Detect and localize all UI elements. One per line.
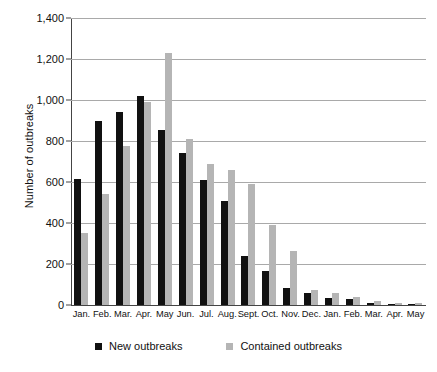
x-tick-label: Mar. xyxy=(363,309,384,319)
gray-square-icon xyxy=(226,343,233,350)
bar-contained-outbreaks xyxy=(81,233,88,305)
legend-label: Contained outbreaks xyxy=(240,340,342,352)
bar-contained-outbreaks xyxy=(311,290,318,305)
bar-group xyxy=(238,18,259,305)
chart-legend: New outbreaksContained outbreaks xyxy=(0,340,437,352)
plot-area: 02004006008001,0001,2001,400 xyxy=(71,18,426,305)
bar-new-outbreaks xyxy=(304,293,311,305)
bar-contained-outbreaks xyxy=(228,170,235,305)
bar-new-outbreaks xyxy=(74,179,81,305)
bar-new-outbreaks xyxy=(388,304,395,305)
bar-contained-outbreaks xyxy=(269,225,276,305)
x-tick-label: Feb. xyxy=(343,309,364,319)
bar-new-outbreaks xyxy=(241,256,248,305)
bar-contained-outbreaks xyxy=(248,184,255,305)
x-tick-label: Mar. xyxy=(113,309,134,319)
x-tick-label: May xyxy=(154,309,175,319)
bar-group xyxy=(113,18,134,305)
outbreaks-bar-chart: Number of outbreaks 02004006008001,0001,… xyxy=(0,0,437,372)
x-tick-label: Feb. xyxy=(92,309,113,319)
bar-group xyxy=(259,18,280,305)
bar-new-outbreaks xyxy=(137,96,144,305)
x-tick-label: Dec. xyxy=(301,309,322,319)
x-tick-label: Jan. xyxy=(322,309,343,319)
bar-contained-outbreaks xyxy=(395,303,402,305)
y-tick-label: 400 xyxy=(46,217,64,229)
x-tick-label: Jan. xyxy=(71,309,92,319)
y-tick-label: 800 xyxy=(46,135,64,147)
y-tick-label: 1,200 xyxy=(36,53,64,65)
bar-group xyxy=(301,18,322,305)
x-tick-label: Jun. xyxy=(175,309,196,319)
y-tick-label: 1,400 xyxy=(36,12,64,24)
legend-item: Contained outbreaks xyxy=(226,340,342,352)
bar-contained-outbreaks xyxy=(374,301,381,305)
x-axis-labels: Jan.Feb.Mar.Apr.MayJun.Jul.Aug.Sept.Oct.… xyxy=(71,309,426,319)
y-tick-label: 200 xyxy=(46,258,64,270)
bar-group xyxy=(71,18,92,305)
bar-contained-outbreaks xyxy=(415,303,422,305)
bar-group xyxy=(405,18,426,305)
bar-group xyxy=(92,18,113,305)
bar-new-outbreaks xyxy=(325,298,332,305)
bar-group xyxy=(175,18,196,305)
bar-new-outbreaks xyxy=(408,304,415,305)
bar-new-outbreaks xyxy=(367,303,374,305)
x-tick-label: Nov. xyxy=(280,309,301,319)
bar-contained-outbreaks xyxy=(290,251,297,305)
bar-group xyxy=(196,18,217,305)
bar-group xyxy=(384,18,405,305)
bar-group xyxy=(342,18,363,305)
bar-new-outbreaks xyxy=(179,153,186,305)
bar-contained-outbreaks xyxy=(353,297,360,305)
x-tick-label: Jul. xyxy=(196,309,217,319)
bar-group xyxy=(134,18,155,305)
x-tick-label: Apr. xyxy=(133,309,154,319)
x-tick-label: Apr. xyxy=(384,309,405,319)
bar-group xyxy=(217,18,238,305)
x-tick-label: Oct. xyxy=(259,309,280,319)
bar-new-outbreaks xyxy=(283,288,290,305)
bar-contained-outbreaks xyxy=(165,53,172,305)
y-axis-title: Number of outbreaks xyxy=(23,31,35,281)
legend-label: New outbreaks xyxy=(109,340,182,352)
bar-contained-outbreaks xyxy=(207,164,214,305)
bar-contained-outbreaks xyxy=(144,102,151,305)
bar-group xyxy=(155,18,176,305)
bar-new-outbreaks xyxy=(116,112,123,305)
x-axis-line xyxy=(71,305,426,306)
bar-new-outbreaks xyxy=(200,180,207,305)
bar-new-outbreaks xyxy=(346,299,353,305)
bar-group xyxy=(280,18,301,305)
bar-group xyxy=(363,18,384,305)
y-tick-label: 600 xyxy=(46,176,64,188)
y-tick-label: 0 xyxy=(58,299,64,311)
black-square-icon xyxy=(95,343,102,350)
legend-item: New outbreaks xyxy=(95,340,182,352)
x-tick-label: Sept. xyxy=(238,309,260,319)
bar-contained-outbreaks xyxy=(102,194,109,305)
bar-new-outbreaks xyxy=(95,121,102,306)
bar-contained-outbreaks xyxy=(332,293,339,305)
bar-group xyxy=(322,18,343,305)
bar-new-outbreaks xyxy=(158,130,165,305)
bar-contained-outbreaks xyxy=(123,146,130,305)
y-tick-label: 1,000 xyxy=(36,94,64,106)
bar-contained-outbreaks xyxy=(186,139,193,305)
x-tick-label: May xyxy=(405,309,426,319)
bar-new-outbreaks xyxy=(262,271,269,305)
x-tick-label: Aug. xyxy=(217,309,238,319)
bar-new-outbreaks xyxy=(221,201,228,305)
bar-groups xyxy=(71,18,426,305)
